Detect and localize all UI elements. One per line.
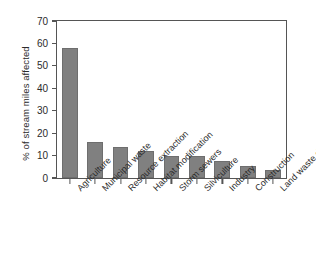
y-tick-label: 60: [37, 37, 48, 50]
x-tick-label: Construction: [253, 186, 260, 193]
x-tick-label: Industry: [227, 186, 234, 193]
y-tick-label: 70: [37, 15, 48, 28]
bar-slot: [235, 21, 260, 178]
x-tick-label: Resource extraction: [126, 186, 133, 193]
x-tick-label: Habitat modification: [151, 186, 158, 193]
y-tick-label: 50: [37, 59, 48, 72]
bar-slot: [108, 21, 133, 178]
x-tick-label: Municipal waste: [100, 186, 107, 193]
y-tick-label: 0: [42, 172, 48, 185]
x-tick-label: Silviculture: [202, 186, 209, 193]
y-axis-ticks: 010203040506070: [0, 20, 56, 179]
x-tick-label: Storm sewers: [177, 186, 184, 193]
bar-chart: % of stream miles affected 0102030405060…: [0, 0, 316, 277]
x-tick-label: Agriculture: [75, 186, 82, 193]
y-tick-label: 10: [37, 149, 48, 162]
bar: [62, 48, 78, 178]
x-tick-label: Land waste disposal: [278, 186, 285, 193]
y-tick-label: 40: [37, 82, 48, 95]
bar-slot: [82, 21, 107, 178]
x-axis-labels: AgricultureMunicipal wasteResource extra…: [57, 186, 286, 276]
bar-slot: [261, 21, 286, 178]
bar-slot: [57, 21, 82, 178]
y-tick-label: 20: [37, 127, 48, 140]
y-tick-label: 30: [37, 104, 48, 117]
x-tick-mark: [69, 179, 70, 184]
